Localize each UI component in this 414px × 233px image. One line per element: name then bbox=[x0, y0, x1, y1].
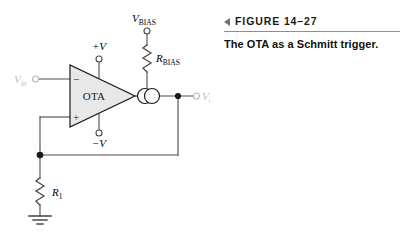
input-label: Vin bbox=[14, 73, 27, 88]
vbias-label: VBIAS bbox=[132, 12, 156, 27]
output-label: Vout bbox=[202, 90, 210, 105]
rbias-subscript: BIAS bbox=[163, 58, 180, 67]
left-triangle-icon bbox=[224, 18, 230, 26]
rbias-label: RBIAS bbox=[155, 52, 180, 67]
figure-header-row: FIGURE 14–27 bbox=[224, 14, 400, 28]
r1-zigzag-icon bbox=[36, 178, 44, 205]
negative-supply-label: −V bbox=[92, 137, 107, 149]
input-terminal-circle bbox=[33, 76, 39, 82]
circuit-diagram: − + OTA +V −V VBIAS RBIAS R1 bbox=[0, 0, 210, 233]
current-source-circle-right bbox=[145, 89, 160, 104]
rbias-zigzag-icon bbox=[143, 45, 151, 72]
r1-label: R1 bbox=[51, 186, 63, 201]
inverting-input-sign: − bbox=[73, 73, 79, 85]
output-subscript: out bbox=[209, 96, 210, 105]
figure-14-27: − + OTA +V −V VBIAS RBIAS R1 bbox=[0, 0, 414, 233]
noninverting-input-sign: + bbox=[73, 111, 79, 123]
figure-caption-text: The OTA as a Schmitt trigger. bbox=[224, 38, 400, 52]
caption-divider bbox=[224, 31, 400, 32]
vbias-subscript: BIAS bbox=[139, 18, 156, 27]
positive-supply-text: +V bbox=[92, 40, 107, 52]
negative-supply-text: −V bbox=[92, 137, 107, 149]
negative-supply-terminal-circle bbox=[96, 130, 102, 136]
vbias-terminal-circle bbox=[144, 28, 150, 34]
junction-dot-output bbox=[175, 93, 181, 99]
input-subscript: in bbox=[21, 79, 27, 88]
ota-body-label: OTA bbox=[83, 90, 106, 102]
r1-subscript: 1 bbox=[59, 192, 63, 201]
figure-caption-block: FIGURE 14–27 The OTA as a Schmitt trigge… bbox=[224, 14, 400, 52]
circuit-schematic-svg: − + OTA +V −V VBIAS RBIAS R1 bbox=[0, 0, 210, 233]
output-terminal-circle bbox=[194, 93, 200, 99]
figure-number-label: FIGURE 14–27 bbox=[235, 15, 318, 27]
positive-supply-label: +V bbox=[92, 40, 107, 52]
junction-dot-feedback bbox=[37, 152, 44, 159]
positive-supply-terminal-circle bbox=[96, 56, 102, 62]
